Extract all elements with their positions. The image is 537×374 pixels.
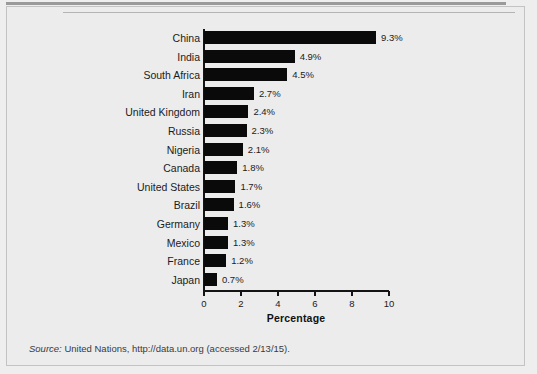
bar-row: Canada1.8% (7, 159, 526, 177)
bar-value-label: 1.8% (242, 159, 264, 177)
bar (204, 143, 243, 156)
bar-row: United Kingdom2.4% (7, 103, 526, 121)
cropped-heading-rule (6, 2, 506, 5)
bar-category-label: Nigeria (167, 141, 200, 159)
bar-category-label: Russia (168, 122, 200, 140)
source-note: Source: United Nations, http://data.un.o… (29, 343, 290, 354)
bar-row: China9.3% (7, 29, 526, 47)
bar-row: Nigeria2.1% (7, 141, 526, 159)
bar-row: India4.9% (7, 48, 526, 66)
bar-category-label: India (177, 48, 200, 66)
bar-value-label: 2.4% (253, 103, 275, 121)
bar-row: Iran2.7% (7, 85, 526, 103)
x-axis-tick (240, 291, 242, 296)
bar-category-label: United States (137, 178, 200, 196)
bar-row: France1.2% (7, 252, 526, 270)
bar-value-label: 1.3% (233, 215, 255, 233)
bar-value-label: 1.7% (240, 178, 262, 196)
x-axis-tick (351, 291, 353, 296)
bar-row: Russia2.3% (7, 122, 526, 140)
bar (204, 31, 376, 44)
x-axis-title: Percentage (203, 312, 389, 324)
bar-value-label: 1.3% (233, 234, 255, 252)
bar (204, 236, 228, 249)
x-axis-tick-label: 4 (275, 298, 280, 309)
bar-category-label: United Kingdom (125, 103, 200, 121)
bar-category-label: France (167, 252, 200, 270)
bar-chart-plot-area: China9.3%India4.9%South Africa4.5%Iran2.… (7, 7, 526, 307)
bar-row: Germany1.3% (7, 215, 526, 233)
x-axis-tick (277, 291, 279, 296)
bar (204, 198, 234, 211)
source-citation: United Nations, http://data.un.org (acce… (62, 343, 290, 354)
bar-category-label: Brazil (174, 196, 200, 214)
figure-panel: China9.3%India4.9%South Africa4.5%Iran2.… (6, 6, 525, 366)
x-axis-line (203, 290, 389, 292)
bar (204, 217, 228, 230)
x-axis-tick-label: 6 (312, 298, 317, 309)
bar-row: South Africa4.5% (7, 66, 526, 84)
bar-row: United States1.7% (7, 178, 526, 196)
bar (204, 50, 295, 63)
x-axis-tick (314, 291, 316, 296)
bar-value-label: 2.7% (259, 85, 281, 103)
bar (204, 87, 254, 100)
bar (204, 105, 248, 118)
x-axis-tick-label: 2 (238, 298, 243, 309)
bar-value-label: 1.6% (239, 196, 261, 214)
bar (204, 273, 217, 286)
x-axis-tick-label: 8 (349, 298, 354, 309)
x-axis-tick (388, 291, 390, 296)
bar-value-label: 4.9% (300, 48, 322, 66)
bar-category-label: Germany (157, 215, 200, 233)
bar-value-label: 0.7% (222, 271, 244, 289)
bar (204, 124, 247, 137)
bar-value-label: 2.3% (252, 122, 274, 140)
x-axis-tick (203, 291, 205, 296)
bar-row: Mexico1.3% (7, 234, 526, 252)
bar-value-label: 4.5% (292, 66, 314, 84)
bar (204, 68, 287, 81)
bar-category-label: Mexico (167, 234, 200, 252)
bar-value-label: 2.1% (248, 141, 270, 159)
bar-category-label: Iran (182, 85, 200, 103)
bar-category-label: China (173, 29, 200, 47)
bar (204, 180, 235, 193)
source-keyword: Source: (29, 343, 62, 354)
bar-category-label: South Africa (143, 66, 200, 84)
x-axis-tick-label: 0 (201, 298, 206, 309)
bar (204, 161, 237, 174)
x-axis-tick-label: 10 (384, 298, 395, 309)
bar-row: Japan0.7% (7, 271, 526, 289)
bar-category-label: Canada (163, 159, 200, 177)
bar (204, 254, 226, 267)
bar-value-label: 1.2% (231, 252, 253, 270)
bar-row: Brazil1.6% (7, 196, 526, 214)
bar-category-label: Japan (171, 271, 200, 289)
bar-value-label: 9.3% (381, 29, 403, 47)
